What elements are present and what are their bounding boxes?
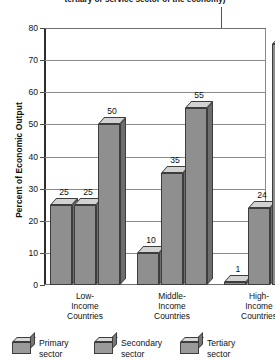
gridline-40 — [44, 157, 266, 158]
bar-front-face — [137, 253, 159, 285]
plot-area — [44, 28, 266, 285]
bar-low-secondary — [74, 205, 96, 285]
gridline-60 — [44, 92, 266, 93]
bar-middle-primary — [137, 253, 159, 285]
legend-label: Secondarysector — [121, 338, 162, 359]
y-tick-mark-20 — [40, 221, 45, 222]
gridline-80 — [44, 28, 266, 29]
category-label-line: Countries — [222, 311, 275, 321]
y-tick-label-0: 0 — [12, 280, 38, 290]
y-tick-label-20: 20 — [12, 216, 38, 226]
bar-front-face — [74, 205, 96, 285]
bar-front-face — [224, 282, 246, 285]
y-tick-mark-70 — [40, 60, 45, 61]
y-tick-mark-60 — [40, 92, 45, 93]
legend-label: Primarysector — [39, 338, 69, 359]
bar-value-label-high-primary: 1 — [223, 264, 253, 274]
category-label-line: Middle- — [135, 291, 209, 301]
category-label-line: Income — [135, 301, 209, 311]
legend-label-line: Primary — [39, 338, 69, 349]
category-label-line: Income — [222, 301, 275, 311]
y-tick-mark-30 — [40, 189, 45, 190]
legend-label: Tertiarysector — [207, 338, 235, 359]
bar-low-primary — [50, 205, 72, 285]
legend-swatch-icon — [12, 337, 36, 354]
x-category-label-1: Middle-IncomeCountries — [135, 291, 209, 321]
bar-value-label-low-tertiary: 50 — [97, 106, 127, 116]
gridline-50 — [44, 124, 266, 125]
bar-front-face — [185, 108, 207, 285]
bar-value-label-high-tertiary: 75 — [271, 26, 275, 36]
bar-value-label-high-secondary: 24 — [247, 190, 275, 200]
bar-low-tertiary — [98, 124, 120, 285]
bar-high-primary — [224, 282, 246, 285]
legend-cube-front — [180, 342, 199, 354]
bar-middle-tertiary — [185, 108, 207, 285]
y-tick-label-70: 70 — [12, 55, 38, 65]
gridline-70 — [44, 60, 266, 61]
bar-front-face — [98, 124, 120, 285]
bar-value-label-middle-secondary: 35 — [160, 155, 190, 165]
category-label-line: Countries — [48, 311, 122, 321]
bar-front-face — [161, 173, 183, 285]
legend-label-line: Tertiary — [207, 338, 235, 349]
category-label-line: Income — [48, 301, 122, 311]
bar-front-face — [272, 44, 275, 285]
legend-label-line: sector — [207, 349, 235, 360]
legend-swatch-icon — [180, 337, 204, 354]
title-leader-line — [221, 7, 222, 29]
legend-label-line: Secondary — [121, 338, 162, 349]
legend-cube-front — [12, 342, 31, 354]
bar-value-label-middle-tertiary: 55 — [184, 90, 214, 100]
bar-chart: tertiary or service sector of the econom… — [0, 0, 275, 360]
bar-high-tertiary — [272, 44, 275, 285]
bar-top-face — [272, 37, 275, 44]
chart-legend: PrimarysectorSecondarysectorTertiarysect… — [0, 331, 275, 360]
bar-side-face — [207, 102, 213, 285]
y-tick-label-10: 10 — [12, 248, 38, 258]
chart-title: tertiary or service sector of the econom… — [20, 0, 270, 4]
legend-swatch-icon — [94, 337, 118, 354]
x-category-label-2: High-IncomeCountries — [222, 291, 275, 321]
bar-side-face — [120, 118, 126, 285]
y-tick-mark-50 — [40, 124, 45, 125]
y-tick-mark-0 — [40, 285, 45, 286]
bar-value-label-low-secondary: 25 — [73, 187, 103, 197]
legend-cube-front — [94, 342, 113, 354]
category-label-line: High- — [222, 291, 275, 301]
bar-front-face — [50, 205, 72, 285]
y-tick-label-60: 60 — [12, 87, 38, 97]
x-category-label-0: Low-IncomeCountries — [48, 291, 122, 321]
bar-value-label-middle-primary: 10 — [136, 235, 166, 245]
y-tick-label-30: 30 — [12, 184, 38, 194]
y-tick-label-80: 80 — [12, 23, 38, 33]
y-tick-mark-10 — [40, 253, 45, 254]
legend-label-line: sector — [39, 349, 69, 360]
y-tick-label-50: 50 — [12, 119, 38, 129]
y-tick-mark-80 — [40, 28, 45, 29]
y-tick-mark-40 — [40, 157, 45, 158]
legend-label-line: sector — [121, 349, 162, 360]
category-label-line: Countries — [135, 311, 209, 321]
y-tick-label-40: 40 — [12, 152, 38, 162]
category-label-line: Low- — [48, 291, 122, 301]
bar-middle-secondary — [161, 173, 183, 285]
